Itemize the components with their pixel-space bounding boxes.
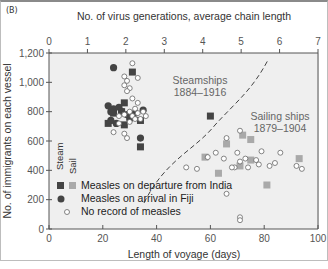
x2-axis-label: No. of virus generations, average chain …	[77, 10, 291, 22]
data-point	[224, 191, 229, 196]
data-point	[299, 166, 304, 171]
data-point	[246, 165, 251, 170]
data-point	[194, 166, 199, 171]
x-tick-label: 20	[97, 233, 109, 244]
data-point	[263, 182, 270, 189]
data-point	[130, 61, 135, 66]
data-point	[256, 162, 261, 167]
data-point	[184, 165, 189, 170]
data-point	[229, 165, 234, 170]
data-point	[121, 121, 128, 128]
data-point	[235, 150, 240, 155]
legend-square-steam-icon	[57, 182, 64, 189]
sailing-ships-years: 1879–1904	[254, 122, 307, 134]
data-point	[294, 163, 299, 168]
data-point	[278, 150, 283, 155]
data-point	[224, 136, 229, 141]
data-point	[122, 83, 127, 88]
x2-tick-label: 0	[46, 36, 52, 47]
x-tick-label: 60	[205, 233, 217, 244]
data-point	[247, 157, 254, 164]
data-point	[111, 130, 116, 135]
y-tick-label: 400	[27, 165, 44, 176]
x2-tick-label: 3	[162, 36, 168, 47]
legend-header-sail: Sail	[67, 158, 78, 174]
data-point	[122, 131, 127, 136]
data-point	[137, 134, 144, 141]
data-point	[107, 117, 114, 124]
data-point	[127, 119, 132, 124]
legend-entry-departure: Measles on departure from India	[81, 179, 232, 191]
sailing-ships-label: Sailing ships	[251, 110, 310, 122]
data-point	[133, 117, 138, 122]
x2-tick-label: 1	[85, 36, 91, 47]
data-point	[125, 89, 130, 94]
data-point	[137, 143, 144, 150]
data-point	[237, 159, 242, 164]
data-point	[205, 155, 210, 160]
data-point	[116, 121, 121, 126]
x2-tick-label: 2	[123, 36, 129, 47]
legend-entry-arrival: Measles on arrival in Fiji	[81, 192, 194, 204]
data-point	[272, 161, 277, 166]
x2-tick-label: 4	[200, 36, 206, 47]
data-point	[237, 218, 242, 223]
data-point	[135, 111, 140, 116]
legend-entry-no-record: No record of measles	[81, 205, 181, 217]
legend-dark-circle-icon	[58, 196, 65, 203]
data-point	[207, 113, 214, 120]
data-point	[122, 112, 127, 117]
x2-tick-label: 7	[315, 36, 321, 47]
x-tick-label: 80	[259, 233, 271, 244]
steamships-years: 1884–1916	[174, 86, 227, 98]
x-axis-label: Length of voyage (days)	[128, 248, 241, 260]
data-point	[213, 150, 218, 155]
x-tick-label: 40	[151, 233, 163, 244]
data-point	[221, 156, 226, 161]
legend-header-steam: Steam	[54, 142, 65, 170]
legend-square-sail-icon	[69, 182, 76, 189]
y-tick-label: 1,200	[19, 48, 44, 59]
data-point	[129, 69, 136, 76]
legend-open-circle-icon	[65, 210, 70, 215]
data-point	[130, 96, 135, 101]
x2-tick-label: 6	[277, 36, 283, 47]
y-axis-label: No. of immigrants on each vessel	[1, 63, 13, 218]
data-point	[243, 156, 248, 161]
y-tick-label: 200	[27, 194, 44, 205]
x-tick-label: 0	[46, 233, 52, 244]
data-point	[143, 114, 148, 119]
y-tick-label: 600	[27, 136, 44, 147]
data-point	[138, 117, 143, 122]
y-tick-label: 0	[38, 224, 44, 235]
x2-tick-label: 5	[238, 36, 244, 47]
data-point	[116, 114, 121, 119]
data-point	[267, 163, 272, 168]
data-point	[107, 108, 114, 115]
data-point	[223, 140, 230, 147]
data-point	[237, 128, 242, 133]
data-point	[135, 75, 140, 80]
data-point	[247, 136, 254, 143]
data-point	[296, 155, 303, 162]
x-tick-label: 100	[310, 233, 327, 244]
y-tick-label: 800	[27, 106, 44, 117]
scatter-chart: 0204060801000123456702004006008001,0001,…	[0, 0, 328, 269]
y-tick-label: 1,000	[19, 77, 44, 88]
data-point	[215, 170, 222, 177]
data-point	[110, 64, 117, 71]
steamships-label: Steamships	[173, 74, 228, 86]
data-point	[259, 149, 264, 154]
data-point	[135, 100, 140, 105]
